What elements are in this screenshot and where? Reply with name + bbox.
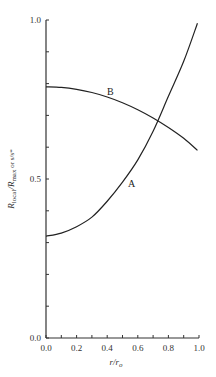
axes: 0.00.20.40.60.81.00.00.51.0 bbox=[30, 15, 205, 353]
curves bbox=[46, 23, 197, 236]
x-axis-title: r/ro bbox=[109, 357, 123, 369]
x-tick-label: 0.6 bbox=[132, 343, 144, 353]
x-tick-label: 1.0 bbox=[193, 343, 205, 353]
curve-b bbox=[46, 87, 197, 151]
x-tick-label: 0.2 bbox=[71, 343, 82, 353]
curve-a bbox=[46, 23, 197, 236]
y-tick-label: 1.0 bbox=[30, 15, 42, 25]
y-tick-label: 0.5 bbox=[30, 174, 42, 184]
x-tick-label: 0.0 bbox=[40, 343, 52, 353]
x-tick-label: 0.8 bbox=[163, 343, 175, 353]
y-axis-title: Rlocal/Rmax or s/s* bbox=[6, 149, 18, 210]
x-tick-label: 0.4 bbox=[102, 343, 114, 353]
curve-label-b: B bbox=[107, 86, 114, 97]
y-tick-label: 0.0 bbox=[30, 333, 42, 343]
curve-label-a: A bbox=[128, 178, 136, 189]
chart: 0.00.20.40.60.81.00.00.51.0 B A r/ro Rlo… bbox=[0, 0, 216, 377]
